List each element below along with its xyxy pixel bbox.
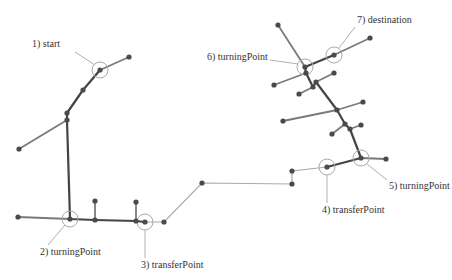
label-transferpoint-4: 4) transferPoint <box>322 204 385 216</box>
branch-lines <box>18 25 386 221</box>
label-start: 1) start <box>32 38 60 50</box>
highlight-circles <box>62 47 369 230</box>
nodes <box>15 22 388 224</box>
labels: 1) start 2) turningPoint 3) transferPoin… <box>32 14 450 271</box>
label-turningpoint-2: 2) turningPoint <box>40 246 101 258</box>
label-turningpoint-6: 6) turningPoint <box>207 51 268 63</box>
route-diagram: 1) start 2) turningPoint 3) transferPoin… <box>0 0 452 280</box>
label-turningpoint-5: 5) turningPoint <box>389 180 450 192</box>
connector-path <box>145 167 327 222</box>
label-destination: 7) destination <box>357 14 412 26</box>
label-transferpoint-3: 3) transferPoint <box>141 259 204 271</box>
